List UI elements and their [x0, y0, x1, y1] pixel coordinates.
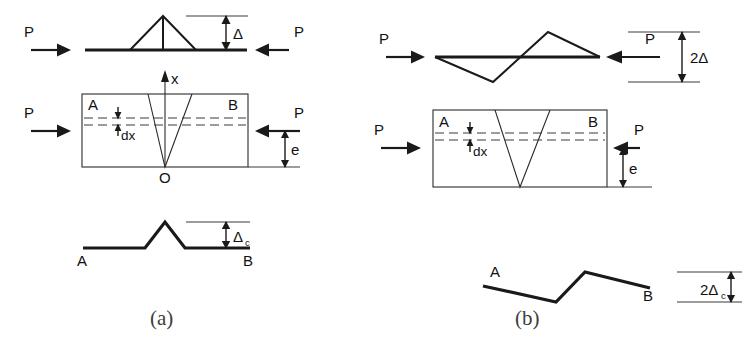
- panel-b-group: P P 2Δ: [374, 30, 742, 330]
- panel-a-dx-label: dx: [121, 128, 136, 143]
- panel-b-dx-label: dx: [473, 144, 488, 159]
- panel-b-section-right-load-label: P: [634, 121, 644, 138]
- panel-b-two-delta-label: 2Δ: [690, 49, 708, 66]
- panel-a-core-deflection-diagram: Δ c A B: [77, 221, 253, 269]
- panel-a-section-right-load-label: P: [294, 104, 304, 121]
- figure-root: P Δ P: [0, 0, 742, 360]
- panel-a-section-label-b: B: [228, 96, 238, 113]
- panel-a-e-label: e: [291, 141, 299, 158]
- panel-b-core-label-b: B: [643, 287, 653, 304]
- panel-b-core-two-delta-label: 2Δ: [700, 281, 718, 298]
- technical-figure-canvas: P Δ P: [0, 0, 742, 360]
- panel-b-top-left-load-label: P: [379, 30, 389, 47]
- panel-b-caption: (b): [515, 306, 540, 330]
- panel-a-group: P Δ P: [24, 15, 304, 330]
- panel-a-e-dimension: [281, 130, 289, 168]
- panel-b-section-rectangle: [433, 110, 607, 187]
- panel-a-top-deflection-diagram: P Δ P: [24, 15, 304, 57]
- panel-b-core-two-delta-dimension: [727, 271, 735, 303]
- panel-a-core-delta-dimension: [222, 221, 230, 249]
- panel-b-core-two-delta-subscript: c: [721, 290, 726, 301]
- panel-a-x-axis-label: x: [171, 70, 179, 87]
- panel-b-core-label-a: A: [490, 263, 500, 280]
- panel-b-section-left-load-arrow: [381, 142, 421, 155]
- panel-a-strain-wedge: [148, 94, 192, 167]
- panel-a-top-right-load-arrow: [255, 44, 289, 57]
- panel-a-section-label-a: A: [88, 96, 98, 113]
- panel-b-core-profile: [483, 272, 650, 302]
- panel-b-top-left-load-arrow: [386, 51, 425, 64]
- panel-a-section-diagram: P x: [24, 70, 304, 186]
- panel-a-core-delta-subscript: c: [245, 237, 250, 248]
- panel-a-top-left-load-arrow: [31, 44, 71, 57]
- panel-a-top-left-load-label: P: [24, 23, 34, 40]
- panel-a-section-left-load-label: P: [24, 104, 34, 121]
- panel-b-section-diagram: P dx A B: [374, 110, 652, 188]
- panel-a-core-label-b: B: [243, 252, 253, 269]
- panel-b-section-right-load-arrow: [613, 142, 640, 155]
- panel-a-core-label-a: A: [77, 252, 87, 269]
- panel-a-delta-dimension: [222, 15, 231, 51]
- panel-a-delta-label: Δ: [233, 25, 243, 42]
- panel-b-strain-wedge: [495, 110, 550, 187]
- panel-a-section-left-load-arrow: [31, 125, 71, 138]
- panel-b-core-deflection-diagram: A B 2Δ c: [483, 263, 742, 304]
- panel-a-caption: (a): [150, 306, 173, 330]
- panel-b-e-label: e: [629, 160, 637, 177]
- panel-b-top-right-load-arrow: [606, 51, 660, 64]
- panel-b-section-label-a: A: [439, 113, 449, 130]
- panel-b-two-delta-dimension: [678, 31, 686, 83]
- panel-b-section-label-b: B: [588, 113, 598, 130]
- panel-b-section-left-load-label: P: [374, 121, 384, 138]
- panel-b-top-deflection-diagram: P P 2Δ: [379, 30, 708, 83]
- panel-a-origin-label: O: [159, 169, 171, 186]
- panel-a-section-right-load-arrow: [255, 125, 300, 138]
- panel-b-e-dimension: [619, 147, 627, 188]
- panel-a-top-right-load-label: P: [294, 23, 304, 40]
- panel-a-core-delta-label: Δ: [233, 228, 243, 245]
